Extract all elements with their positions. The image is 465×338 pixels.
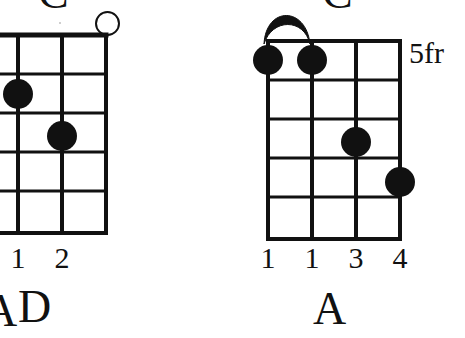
right-chord-name-bottom: A [313,286,346,332]
left-chord-name-top: C [38,0,69,16]
right-dot-string3-fret3 [341,127,371,157]
paper-speck [59,22,61,24]
right-finger-number-string4: 4 [393,243,408,273]
right-dot-string1-fret1 [253,45,283,75]
left-chord-diagram [0,30,130,242]
left-chord-name-bottom: D [18,284,51,330]
right-finger-number-string1: 1 [261,243,276,273]
left-dot-string2-fret2 [3,79,33,109]
left-finger-number-string3: 2 [55,243,70,273]
right-finger-number-string2: 1 [305,243,320,273]
left-dot-string3-fret3 [47,121,77,151]
left-finger-number-string2: 1 [11,243,26,273]
chord-chart-page: C 1 2 A [0,0,465,338]
left-bottom-name-partial: A [0,288,17,334]
right-chord-diagram [263,36,423,248]
right-dot-string4-fret4 [385,167,415,197]
right-dot-string2-fret1 [297,45,327,75]
right-fret-position-label: 5fr [409,38,444,68]
right-finger-number-string3: 3 [349,243,364,273]
